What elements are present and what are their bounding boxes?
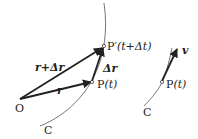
origin-label: O: [15, 102, 24, 115]
point-p-prime: [102, 44, 105, 47]
curve-c-left-label: C: [44, 124, 52, 137]
point-p-label: P(t): [97, 78, 117, 91]
vector-r-label: r: [57, 84, 64, 97]
vector-delta-r-label: Δr: [102, 62, 119, 75]
vector-r: [20, 82, 91, 99]
point-p-prime-label: P′(t+Δt): [107, 40, 152, 53]
velocity-diagram: O C r r+Δr Δr P(t) P′(t+Δt) v P(t) C: [0, 0, 198, 139]
vector-r-plus-delta-r-label: r+Δr: [35, 61, 66, 74]
vector-v: [162, 49, 177, 81]
point-p-right-label: P(t): [166, 78, 186, 91]
curve-c-right: [144, 48, 172, 106]
point-p-right: [160, 80, 163, 83]
vector-v-label: v: [182, 44, 189, 57]
curve-c-right-label: C: [143, 106, 151, 119]
point-p: [90, 80, 93, 83]
